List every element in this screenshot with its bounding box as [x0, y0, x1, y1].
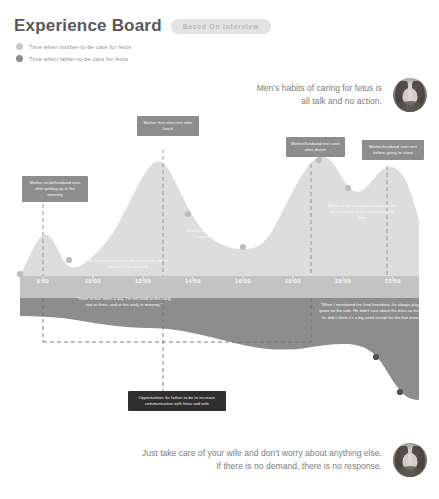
avatar-female: [393, 78, 427, 112]
legend-swatch-icon: [16, 55, 23, 62]
callout-morning-meal: Mother-to-be/husband eats after getting …: [22, 176, 88, 202]
callout-after-lunch-rest: Mother first start rest after lunch: [137, 116, 199, 136]
chart-legend: Time when mother-to-be care for fetus Ti…: [16, 43, 131, 67]
page-title: Experience Board: [14, 16, 162, 36]
legend-label-father: Time when father-to-be care for fetus: [29, 56, 128, 62]
legend-item-mother: Time when mother-to-be care for fetus: [16, 43, 131, 50]
page-header: Experience Board Based on interview: [14, 16, 271, 36]
quote-top: Men's habits of caring for fetus is all …: [257, 78, 427, 112]
quote-bottom: Just take care of your wife and don't wo…: [142, 443, 427, 477]
avatar-body: [397, 466, 423, 477]
quote-top-text: Men's habits of caring for fetus is all …: [257, 82, 382, 109]
axis-tick-1600: 16:00: [235, 278, 251, 284]
axis-tick-2000: 20:00: [335, 278, 351, 284]
quote-top-line1: Men's habits of caring for fetus is: [257, 82, 382, 95]
quote-bottom-line2: If there is no demand, there is no respo…: [142, 460, 382, 473]
quote-bottom-line1: Just take care of your wife and don't wo…: [142, 447, 382, 460]
inline-label-morning: Mother-to-be cares for the fetus while s…: [86, 258, 170, 270]
callout-before-sleep-rest: Mother/husband start rest before going t…: [362, 140, 424, 160]
legend-swatch-icon: [16, 43, 23, 50]
inline-label-evening: Mother-to-be and husband care for the fe…: [327, 203, 397, 221]
axis-tick-1800: 18:00: [285, 278, 301, 284]
band-quote-right: "When I mentioned the fetal heartbeat, h…: [317, 302, 427, 321]
status-badge: Based on interview: [171, 19, 272, 34]
quote-top-line2: all talk and no action.: [257, 95, 382, 108]
time-axis-labels: 8:00 10:00 12:00 14:00 16:00 18:00 20:00…: [0, 278, 439, 290]
callout-opportunity: Opportunities for father-to-be to increa…: [128, 391, 226, 411]
legend-item-father: Time when father-to-be care for fetus: [16, 55, 131, 62]
avatar-male: [393, 443, 427, 477]
band-quote-left: "Three to four times a day, I'm still fi…: [74, 296, 174, 309]
experience-board-page: Experience Board Based on interview Time…: [0, 0, 439, 499]
legend-label-mother: Time when mother-to-be care for fetus: [29, 44, 131, 50]
axis-tick-1200: 12:00: [135, 278, 151, 284]
axis-tick-1000: 10:00: [85, 278, 101, 284]
axis-tick-1400: 14:00: [185, 278, 201, 284]
axis-tick-0800: 8:00: [37, 278, 50, 284]
inline-label-afternoon: Mother-to-be feels the fetal movement mo…: [186, 228, 256, 240]
callout-after-dinner-rest: Mother/husband rest soon after dinner: [286, 137, 345, 157]
axis-tick-2200: 22:00: [385, 278, 401, 284]
avatar-body: [397, 101, 423, 112]
quote-bottom-text: Just take care of your wife and don't wo…: [142, 447, 382, 474]
